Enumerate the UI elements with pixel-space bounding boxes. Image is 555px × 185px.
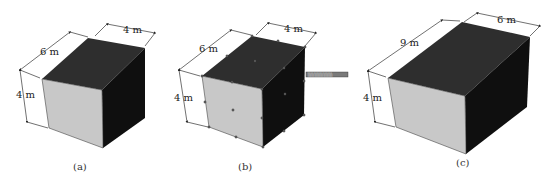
grip-handle[interactable] xyxy=(261,88,263,90)
dim-c-length: 9 m xyxy=(400,37,420,48)
grip-handle[interactable] xyxy=(283,130,285,132)
diagram-canvas: 6 m 4 m 4 m (a) xyxy=(0,0,555,185)
dim-a-height: 4 m xyxy=(16,89,36,100)
caption-b: (b) xyxy=(238,161,252,172)
caption-a: (a) xyxy=(73,161,87,172)
grip-handle[interactable] xyxy=(283,67,285,69)
caption-c: (c) xyxy=(456,157,470,168)
dim-b-length: 6 m xyxy=(199,43,219,54)
grip-handle[interactable] xyxy=(251,35,253,37)
box-a-front-face xyxy=(42,79,103,148)
grip-handle[interactable] xyxy=(231,81,233,83)
figure-b: ░░░░░░░░ 6 m 4 m 4 m (b) xyxy=(174,23,348,172)
grip-handle[interactable] xyxy=(284,93,286,95)
grip-handle[interactable] xyxy=(226,55,228,57)
grip-handle[interactable] xyxy=(235,136,237,138)
dim-b-width: 4 m xyxy=(284,23,304,34)
grip-handle[interactable] xyxy=(277,40,279,42)
dim-a-width: 4 m xyxy=(123,24,143,35)
grip-handle[interactable] xyxy=(303,80,305,82)
grip-handle[interactable] xyxy=(303,114,305,116)
tooltip-text: ░░░░░░░░ xyxy=(308,72,333,77)
grip-handle[interactable] xyxy=(304,46,306,48)
grip-handle[interactable] xyxy=(262,146,264,148)
figure-a: 6 m 4 m 4 m (a) xyxy=(16,24,155,172)
grip-handle[interactable] xyxy=(261,117,263,119)
dim-a-length: 6 m xyxy=(40,46,60,57)
tooltip-b: ░░░░░░░░ xyxy=(306,72,348,77)
dim-c-width: 6 m xyxy=(497,14,517,25)
figure-c: 9 m 6 m 4 m (c) xyxy=(363,13,540,168)
grip-handle[interactable] xyxy=(254,60,256,62)
grip-handle[interactable] xyxy=(201,75,203,77)
grip-handle[interactable] xyxy=(208,126,210,128)
grip-handle[interactable] xyxy=(204,101,206,103)
dim-b-height: 4 m xyxy=(174,92,194,103)
dim-c-height: 4 m xyxy=(363,92,383,103)
grip-handle[interactable] xyxy=(232,109,234,111)
